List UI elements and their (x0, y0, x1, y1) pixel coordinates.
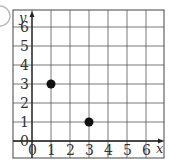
x-tick-label: 3 (85, 142, 94, 158)
x-tick-label: 0 (28, 142, 37, 158)
y-tick-label: 5 (20, 38, 29, 54)
x-axis-label: x (156, 141, 164, 156)
y-tick-label: 0 (20, 133, 29, 149)
y-tick-label: 4 (20, 57, 29, 73)
y-tick-label: 1 (20, 114, 29, 130)
data-point (47, 80, 56, 89)
question-marker (0, 6, 10, 26)
y-tick-label: 3 (20, 76, 29, 92)
data-point (85, 118, 94, 127)
x-tick-label: 4 (104, 142, 113, 158)
coordinate-grid-chart: 01234560123456 x y (0, 0, 170, 168)
x-tick-label: 1 (47, 142, 56, 158)
x-tick-label: 2 (66, 142, 75, 158)
y-axis-label: y (18, 10, 27, 25)
x-tick-label: 6 (142, 142, 151, 158)
x-tick-label: 5 (123, 142, 132, 158)
y-tick-label: 2 (20, 95, 29, 111)
